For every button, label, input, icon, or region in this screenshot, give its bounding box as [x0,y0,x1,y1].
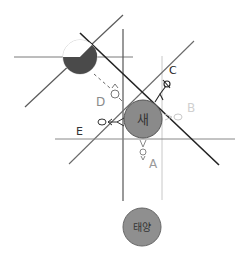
label-b: B [187,101,195,115]
observer-a-icon [140,140,146,160]
label-d: D [96,95,105,109]
observer-e-icon [98,118,124,126]
diagram-canvas: 새 태양 A B C D E [0,0,247,264]
dashed-moon-link [94,74,110,88]
label-e: E [76,125,83,138]
sun-label: 태양 [133,222,151,233]
center-body-label: 새 [137,112,149,127]
label-c: C [169,64,177,77]
label-a: A [149,157,158,171]
moon-icon [63,40,97,74]
observer-d-icon [111,84,122,101]
